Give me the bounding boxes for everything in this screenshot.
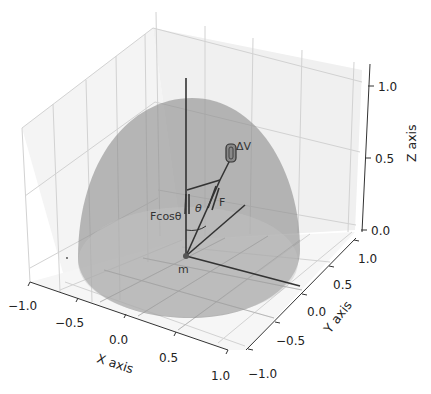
3d-plot: ΔV F θ Fcosθ m −1.0 −0.5 0.0 0.5 1.0 X a… (0, 0, 431, 394)
svg-text:−0.5: −0.5 (276, 334, 305, 348)
svg-text:0.5: 0.5 (333, 278, 352, 292)
z-axis-line (362, 64, 370, 232)
label-theta: θ (195, 202, 202, 215)
delta-v-element (226, 144, 236, 162)
svg-text:0.0: 0.0 (371, 224, 390, 238)
z-tick-labels: 1.0 0.5 0.0 (371, 80, 397, 238)
stray-dot (66, 257, 68, 259)
svg-text:−1.0: −1.0 (248, 367, 277, 381)
label-delta-v: ΔV (236, 140, 252, 153)
svg-text:1.0: 1.0 (378, 80, 397, 94)
label-m: m (178, 263, 189, 276)
z-axis-label: Z axis (404, 124, 419, 162)
svg-text:−0.5: −0.5 (55, 316, 84, 330)
svg-text:0.5: 0.5 (375, 152, 394, 166)
x-axis-label: X axis (95, 351, 135, 377)
svg-text:1.0: 1.0 (358, 252, 377, 266)
svg-text:0.0: 0.0 (307, 305, 326, 319)
svg-text:0.5: 0.5 (159, 351, 178, 365)
svg-text:1.0: 1.0 (211, 369, 230, 383)
svg-text:0.0: 0.0 (109, 333, 128, 347)
label-fcos-theta: Fcosθ (150, 210, 182, 223)
svg-text:−1.0: −1.0 (8, 299, 37, 313)
point-mass (183, 253, 189, 259)
fcos-arrow-1 (185, 194, 186, 214)
label-f: F (219, 196, 225, 209)
